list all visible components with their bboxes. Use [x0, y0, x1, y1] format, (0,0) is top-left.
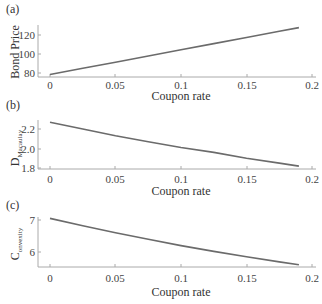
macaulay-duration-line — [50, 122, 299, 166]
svg-text:0.1: 0.1 — [174, 272, 188, 284]
svg-text:80: 80 — [24, 67, 36, 79]
svg-text:120: 120 — [19, 29, 36, 41]
svg-text:0.15: 0.15 — [237, 173, 257, 185]
panel-c-label: (c) — [6, 198, 19, 212]
svg-text:2.0: 2.0 — [21, 143, 35, 155]
panel-b: (b) DMacaulay 2.2 2.0 1.8 0 0.05 0.1 0.1… — [6, 98, 319, 198]
panel-a-xlabel: Coupon rate — [152, 89, 211, 103]
svg-text:0.2: 0.2 — [305, 79, 319, 91]
svg-text:0.05: 0.05 — [105, 173, 125, 185]
svg-text:0: 0 — [47, 79, 53, 91]
svg-text:0: 0 — [47, 173, 53, 185]
svg-text:6: 6 — [30, 246, 36, 258]
panel-a: (a) Bond Price 120 100 80 0 0.05 0.1 0.1… — [6, 2, 319, 103]
svg-text:0.15: 0.15 — [237, 79, 257, 91]
panel-a-label: (a) — [6, 2, 19, 16]
panel-c-xlabel: Coupon rate — [152, 285, 211, 299]
bond-price-line — [50, 28, 299, 75]
panel-b-xlabel: Coupon rate — [152, 184, 211, 198]
panel-c: (c) Convexity 7 6 0 0.05 0.1 0.15 0.2 Co… — [6, 198, 319, 299]
svg-text:100: 100 — [19, 48, 36, 60]
panel-c-ylabel: Convexity — [8, 227, 24, 260]
svg-text:2.2: 2.2 — [21, 123, 35, 135]
svg-text:0.2: 0.2 — [305, 272, 319, 284]
svg-text:0.05: 0.05 — [105, 272, 125, 284]
figure: (a) Bond Price 120 100 80 0 0.05 0.1 0.1… — [0, 0, 322, 304]
svg-text:0: 0 — [47, 272, 53, 284]
svg-text:0.15: 0.15 — [237, 272, 257, 284]
svg-text:1.8: 1.8 — [21, 162, 35, 174]
svg-text:7: 7 — [30, 214, 36, 226]
panel-c-y-ticks: 7 6 — [30, 214, 42, 258]
panel-b-label: (b) — [6, 98, 20, 112]
svg-text:0.2: 0.2 — [305, 173, 319, 185]
svg-text:0.05: 0.05 — [105, 79, 125, 91]
convexity-line — [50, 218, 299, 264]
